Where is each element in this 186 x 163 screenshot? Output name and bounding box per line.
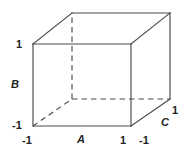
c-axis-max-tick-label: 1 [172, 105, 178, 116]
edge-top-right-diagonal [131, 13, 170, 44]
b-axis-title: B [11, 79, 19, 90]
a-axis-title: A [77, 134, 85, 145]
edge-hidden-bottom-left-diagonal [33, 99, 72, 126]
edge-top-left-diagonal [33, 13, 72, 44]
c-axis-min-tick-label: -1 [139, 135, 149, 146]
cube-solid-edges [33, 13, 170, 126]
cube-axes-figure: 1 B -1 -1 A 1 -1 C 1 [0, 0, 186, 163]
b-axis-max-tick-label: 1 [16, 39, 22, 50]
c-axis-title: C [161, 117, 169, 128]
a-axis-max-tick-label: 1 [120, 135, 126, 146]
b-axis-min-tick-label: -1 [12, 120, 22, 131]
a-axis-min-tick-label: -1 [22, 135, 32, 146]
